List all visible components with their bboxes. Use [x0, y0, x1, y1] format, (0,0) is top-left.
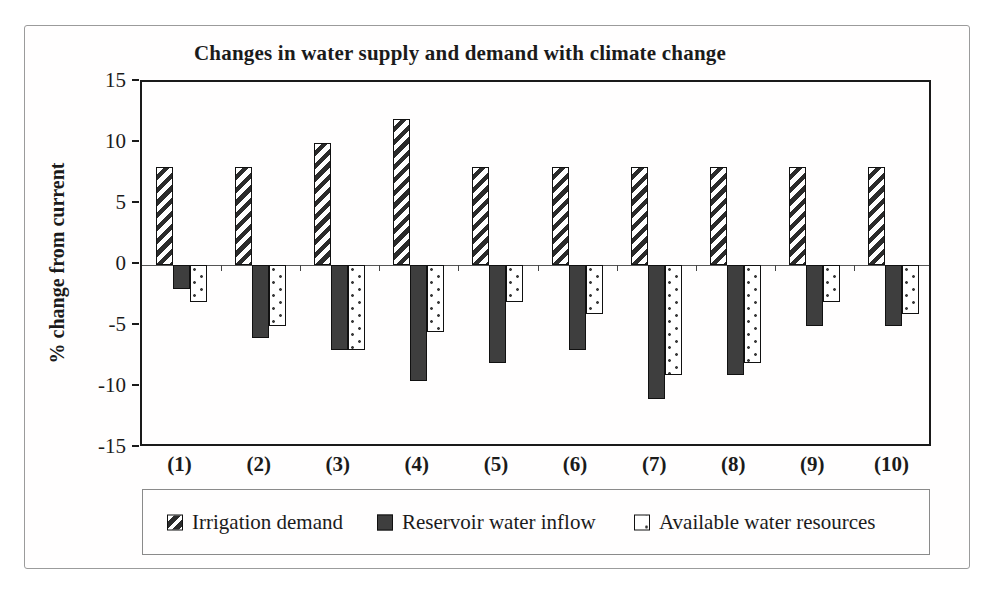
x-category-label: (5) — [456, 452, 535, 477]
y-tick-label: 10 — [80, 131, 126, 152]
y-tick-mark — [132, 140, 139, 142]
plot-area — [140, 80, 931, 446]
x-category-label: (10) — [852, 452, 931, 477]
y-tick-mark — [132, 262, 139, 264]
legend: Irrigation demandReservoir water inflowA… — [142, 489, 930, 555]
y-tick-label: -15 — [80, 436, 126, 457]
bar-irrigation-demand-3 — [314, 143, 331, 265]
category-axis-tick — [221, 265, 222, 271]
bar-reservoir-water-inflow-8 — [727, 265, 744, 375]
category-axis-tick — [696, 265, 697, 271]
bar-reservoir-water-inflow-10 — [885, 265, 902, 326]
y-tick-mark — [132, 384, 139, 386]
bar-irrigation-demand-2 — [235, 167, 252, 265]
figure: Changes in water supply and demand with … — [0, 0, 995, 591]
bar-available-water-resources-4 — [427, 265, 444, 332]
bar-reservoir-water-inflow-1 — [173, 265, 190, 289]
y-tick-label: 15 — [80, 70, 126, 91]
bar-available-water-resources-2 — [269, 265, 286, 326]
category-axis-tick — [300, 265, 301, 271]
bar-available-water-resources-3 — [348, 265, 365, 350]
bar-reservoir-water-inflow-3 — [331, 265, 348, 350]
y-tick-mark — [132, 201, 139, 203]
available-water-resources-swatch-icon — [634, 514, 650, 530]
bar-irrigation-demand-4 — [393, 119, 410, 265]
y-tick-label: 5 — [80, 192, 126, 213]
category-axis-tick — [458, 265, 459, 271]
x-category-label: (7) — [615, 452, 694, 477]
category-axis-tick — [775, 265, 776, 271]
y-tick-label: -10 — [80, 375, 126, 396]
bar-available-water-resources-10 — [902, 265, 919, 314]
bar-reservoir-water-inflow-2 — [252, 265, 269, 338]
category-axis-tick — [379, 265, 380, 271]
legend-item-available-water-resources: Available water resources — [634, 510, 876, 535]
reservoir-water-inflow-swatch-icon — [377, 514, 393, 530]
bar-irrigation-demand-6 — [552, 167, 569, 265]
bar-reservoir-water-inflow-6 — [569, 265, 586, 350]
bar-available-water-resources-7 — [665, 265, 682, 375]
y-tick-label: -5 — [80, 314, 126, 335]
y-tick-mark — [132, 323, 139, 325]
bar-reservoir-water-inflow-7 — [648, 265, 665, 399]
y-axis-title: % change from current — [46, 163, 69, 364]
bar-available-water-resources-6 — [586, 265, 603, 314]
bar-irrigation-demand-10 — [868, 167, 885, 265]
y-tick-mark — [132, 445, 139, 447]
x-category-label: (6) — [536, 452, 615, 477]
bar-available-water-resources-5 — [506, 265, 523, 302]
x-category-label: (3) — [298, 452, 377, 477]
legend-item-irrigation-demand: Irrigation demand — [167, 510, 343, 535]
category-axis-tick — [854, 265, 855, 271]
category-axis-tick — [538, 265, 539, 271]
bar-reservoir-water-inflow-5 — [489, 265, 506, 363]
x-category-label: (4) — [377, 452, 456, 477]
chart-title: Changes in water supply and demand with … — [140, 41, 780, 66]
bar-irrigation-demand-8 — [710, 167, 727, 265]
bar-reservoir-water-inflow-9 — [806, 265, 823, 326]
y-tick-mark — [132, 79, 139, 81]
bar-irrigation-demand-1 — [156, 167, 173, 265]
irrigation-demand-swatch-icon — [167, 514, 183, 530]
legend-label: Available water resources — [659, 510, 876, 535]
x-category-label: (2) — [219, 452, 298, 477]
x-category-label: (1) — [140, 452, 219, 477]
y-tick-label: 0 — [80, 253, 126, 274]
bar-irrigation-demand-9 — [789, 167, 806, 265]
legend-label: Reservoir water inflow — [402, 510, 596, 535]
category-axis-tick — [617, 265, 618, 271]
bar-available-water-resources-1 — [190, 265, 207, 302]
bar-reservoir-water-inflow-4 — [410, 265, 427, 381]
legend-label: Irrigation demand — [192, 510, 343, 535]
bar-available-water-resources-8 — [744, 265, 761, 363]
x-category-label: (9) — [773, 452, 852, 477]
legend-item-reservoir-water-inflow: Reservoir water inflow — [377, 510, 596, 535]
bar-available-water-resources-9 — [823, 265, 840, 302]
bar-irrigation-demand-7 — [631, 167, 648, 265]
x-category-label: (8) — [694, 452, 773, 477]
bar-irrigation-demand-5 — [472, 167, 489, 265]
